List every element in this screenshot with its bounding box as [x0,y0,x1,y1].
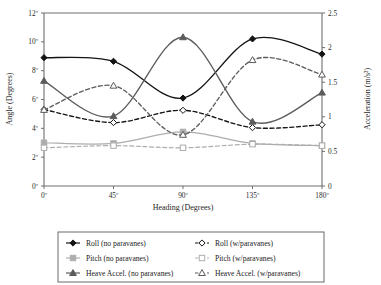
y-axis-tick-label: 8º [32,66,39,75]
data-point-marker [319,143,324,148]
x-axis-tick-label: 180º [315,191,329,200]
x-axis-tick-label: 90º [178,191,188,200]
legend-marker [199,240,205,246]
data-point-marker [41,77,48,83]
y-axis-tick-label: 4º [32,124,39,133]
x-axis-title: Heading (Degrees) [153,203,214,212]
y2-axis-tick-label: 0.5 [328,147,338,156]
data-point-marker [319,122,325,128]
data-point-marker [180,95,186,101]
chart-container: 0º2º4º6º8º10º12º00.511.522.50º45º90º135º… [0,0,381,285]
y-axis-title: Angle (Degrees) [5,72,14,125]
data-point-marker [180,145,185,150]
y-axis-tick-label: 6º [32,95,39,104]
data-point-marker [250,141,255,146]
data-point-marker [110,119,116,125]
legend-label: Pitch (no paravanes) [86,254,149,263]
legend-label: Heave Accel. (w/paravanes) [215,269,301,278]
x-axis-tick-label: 45º [109,191,119,200]
legend-marker [199,255,204,260]
y-axis-tick-label: 0º [32,182,39,191]
legend-label: Roll (no paravanes) [86,239,146,248]
x-axis-tick-label: 0º [41,191,48,200]
x-axis-tick-label: 135º [246,191,260,200]
data-point-marker [180,107,186,113]
heading-response-chart: 0º2º4º6º8º10º12º00.511.522.50º45º90º135º… [0,0,381,285]
legend-marker [70,240,76,246]
data-point-marker [110,58,116,64]
data-point-marker [249,125,255,131]
y2-axis-title: Acceleration (m/s²) [363,68,372,130]
data-point-marker [41,145,46,150]
y-axis-tick-label: 2º [32,153,39,162]
data-point-marker [319,51,325,57]
y2-axis-tick-label: 0 [328,182,332,191]
data-point-marker [319,89,326,95]
legend-label: Heave Accel. (no paravanes) [86,269,174,278]
legend-label: Pitch (w/paravanes) [215,254,276,263]
legend-marker [70,255,75,260]
y2-axis-tick-label: 1 [328,112,332,121]
y2-axis-tick-label: 1.5 [328,78,338,87]
data-point-marker [111,143,116,148]
series-line [44,37,322,98]
y2-axis-tick-label: 2 [328,43,332,52]
y-axis-tick-label: 10º [28,37,38,46]
y-axis-tick-label: 12º [28,9,38,18]
y2-axis-tick-label: 2.5 [328,9,338,18]
data-point-marker [249,36,255,42]
data-point-marker [41,55,47,61]
data-point-marker [319,71,326,77]
legend-label: Roll (w/paravanes) [215,239,273,248]
